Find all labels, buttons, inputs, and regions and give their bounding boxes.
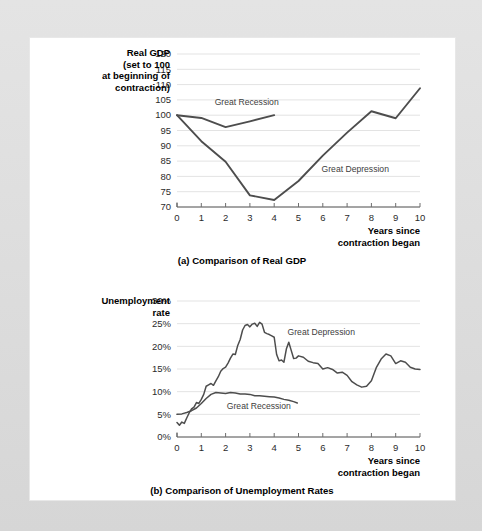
x-tick-label: 4 (272, 212, 277, 223)
x-tick-label: 6 (320, 442, 325, 453)
gridlines (177, 301, 420, 414)
x-axis-title-line: contraction began (338, 467, 421, 478)
panel-caption: (a) Comparison of Real GDP (178, 255, 307, 266)
series-annotation-great-recession: Great Recession (215, 97, 279, 107)
y-tick-label: 95 (160, 125, 171, 136)
x-tick-label: 2 (223, 212, 228, 223)
x-tick-label: 10 (415, 442, 426, 453)
x-tick-label: 9 (393, 212, 398, 223)
y-tick-label: 105 (155, 94, 171, 105)
y-tick-label: 85 (160, 155, 171, 166)
y-axis-title: Real GDP(set to 100at beginning ofcontra… (102, 47, 171, 93)
series-line-great-depression (177, 322, 420, 425)
textbook-page-sheet: 707580859095100105110115120012345678910G… (30, 38, 455, 500)
x-tick-label: 0 (174, 212, 179, 223)
x-axis: 012345678910 (174, 433, 425, 454)
series-line-great-depression (177, 88, 420, 200)
y-tick-label: 5% (157, 409, 171, 420)
x-tick-label: 6 (320, 212, 325, 223)
y-axis-title: Unemploymentrate (101, 295, 170, 318)
figure-container: 707580859095100105110115120012345678910G… (30, 38, 455, 500)
y-tick-label: 75 (160, 186, 171, 197)
x-tick-label: 0 (174, 442, 179, 453)
x-tick-label: 2 (223, 442, 228, 453)
panel-caption: (b) Comparison of Unemployment Rates (150, 485, 333, 496)
series-annotation-great-depression: Great Depression (322, 164, 390, 174)
y-tick-label: 100 (155, 109, 171, 120)
x-tick-label: 7 (344, 212, 349, 223)
x-tick-label: 4 (272, 442, 277, 453)
x-tick-label: 7 (344, 442, 349, 453)
x-axis: 012345678910 (174, 203, 425, 224)
y-axis-title-line: (set to 100 (123, 59, 170, 70)
y-axis-title-line: contraction) (115, 82, 170, 93)
x-tick-label: 5 (296, 212, 301, 223)
y-tick-label: 90 (160, 140, 171, 151)
y-axis-title-line: at beginning of (102, 70, 171, 81)
x-tick-label: 9 (393, 442, 398, 453)
series-line-great-recession (177, 115, 274, 127)
x-tick-label: 8 (369, 442, 374, 453)
y-axis-title-line: Real GDP (127, 47, 171, 58)
y-tick-label: 80 (160, 171, 171, 182)
y-tick-label: 70 (160, 201, 171, 212)
y-tick-label: 20% (152, 341, 172, 352)
x-tick-label: 1 (199, 212, 204, 223)
x-axis-title-line: Years since (368, 225, 420, 236)
x-tick-label: 10 (415, 212, 426, 223)
x-tick-label: 3 (247, 442, 252, 453)
series-annotation-great-recession: Great Recession (227, 401, 291, 411)
x-axis-title: Years sincecontraction began (338, 225, 421, 248)
y-tick-label: 25% (152, 318, 172, 329)
x-axis-title: Years sincecontraction began (338, 455, 421, 478)
y-tick-label: 15% (152, 363, 172, 374)
x-tick-label: 5 (296, 442, 301, 453)
x-axis-title-line: Years since (368, 455, 420, 466)
y-tick-label: 10% (152, 386, 172, 397)
series-annotation-great-depression: Great Depression (288, 327, 356, 337)
chart-panel-unemployment-rate: 0%5%10%15%20%25%30%012345678910Great Dep… (101, 295, 425, 496)
y-axis-title-line: rate (153, 307, 170, 318)
economic-comparison-figure: 707580859095100105110115120012345678910G… (30, 38, 455, 500)
y-axis-title-line: Unemployment (101, 295, 170, 306)
chart-panel-real-gdp: 707580859095100105110115120012345678910G… (102, 47, 425, 266)
y-tick-label: 0% (157, 431, 171, 442)
x-axis-title-line: contraction began (338, 237, 421, 248)
x-tick-label: 8 (369, 212, 374, 223)
x-tick-label: 1 (199, 442, 204, 453)
x-tick-label: 3 (247, 212, 252, 223)
